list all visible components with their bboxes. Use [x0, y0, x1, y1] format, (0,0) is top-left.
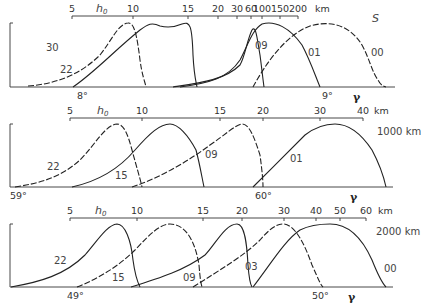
top-axis-unit: km	[378, 205, 393, 216]
bottom-axis-tick-label: 49°	[67, 290, 84, 301]
top-axis-symbol: h0	[97, 104, 109, 118]
top-axis-tick-label: 100	[253, 3, 271, 14]
top-axis-tick-label: 15	[182, 3, 194, 14]
bottom-axis-tick-label: 50°	[312, 290, 329, 301]
gamma-axis-symbol: γ	[350, 191, 358, 204]
series-label-09: 09	[183, 272, 196, 283]
series-label-22: 22	[54, 255, 67, 266]
bottom-axis-tick-label: 9°	[322, 90, 333, 101]
top-axis-symbol: h0	[96, 2, 108, 16]
series-label-09: 09	[255, 40, 268, 51]
top-axis-tick-label: 20	[212, 3, 224, 14]
top-axis-tick-label: 40	[310, 205, 322, 216]
gamma-axis-symbol: γ	[348, 291, 356, 304]
series-curve-30	[28, 23, 146, 87]
baseline-frame	[10, 124, 393, 187]
series-label-15: 15	[112, 272, 125, 283]
panel-label: 2000 km	[376, 226, 420, 237]
gamma-axis-symbol: γ	[353, 91, 361, 104]
series-label-01: 01	[290, 153, 303, 164]
series-curve-00	[253, 224, 386, 287]
series-label-00: 00	[371, 47, 384, 58]
top-axis-tick-label: 200	[289, 3, 307, 14]
series-label-00: 00	[384, 263, 397, 274]
panel-label: S	[372, 12, 379, 25]
baseline-frame	[10, 224, 393, 287]
top-axis-tick-label: 15	[197, 205, 209, 216]
top-axis-unit: km	[315, 3, 330, 14]
series-label-15: 15	[115, 170, 128, 181]
series-label-09: 09	[205, 149, 218, 160]
panel-label: 1000 km	[377, 126, 421, 137]
top-axis-tick-label: 20	[257, 105, 269, 116]
top-axis-tick-label: 20	[236, 205, 248, 216]
top-axis-tick-label: 5	[67, 105, 73, 116]
panel-bottom: 510152030405060kmh049°50°γ2000 km2215090…	[10, 204, 420, 304]
series-label-22: 22	[47, 161, 60, 172]
bottom-axis-tick-label: 60°	[255, 190, 272, 201]
top-axis-tick-label: 5	[69, 3, 75, 14]
series-label-22: 22	[60, 64, 73, 75]
panel-top: 51015203060100150200kmh08°9°γS3022090100	[10, 2, 395, 104]
top-axis-tick-label: 30	[314, 105, 326, 116]
series-label-03: 03	[245, 261, 258, 272]
top-axis-tick-label: 15	[214, 105, 226, 116]
top-axis-tick-label: 40	[357, 105, 369, 116]
top-axis-tick-label: 60	[360, 205, 372, 216]
series-curve-15	[72, 124, 204, 187]
figure: 51015203060100150200kmh08°9°γS3022090100…	[0, 0, 421, 305]
top-axis-tick-label: 10	[136, 105, 148, 116]
top-axis-tick-label: 50	[334, 205, 346, 216]
top-axis-tick-label: 5	[67, 205, 73, 216]
top-axis-symbol: h0	[95, 204, 107, 218]
series-curve-03	[193, 224, 323, 287]
series-curve-01	[253, 124, 386, 187]
bottom-axis-tick-label: 59°	[10, 190, 27, 201]
top-axis-unit: km	[374, 105, 389, 116]
series-label-01: 01	[308, 47, 321, 58]
top-axis-tick-label: 30	[278, 205, 290, 216]
top-axis-tick-label: 10	[127, 3, 139, 14]
baseline-frame	[10, 23, 395, 87]
panel-middle: 51015203040kmh059°60°γ1000 km22150901	[10, 104, 421, 204]
bottom-axis-tick-label: 8°	[77, 90, 88, 101]
top-axis-tick-label: 30	[231, 3, 243, 14]
top-axis-tick-label: 150	[271, 3, 289, 14]
series-label-30: 30	[46, 42, 59, 53]
top-axis-tick-label: 10	[131, 205, 143, 216]
series-curve-01	[180, 23, 320, 87]
